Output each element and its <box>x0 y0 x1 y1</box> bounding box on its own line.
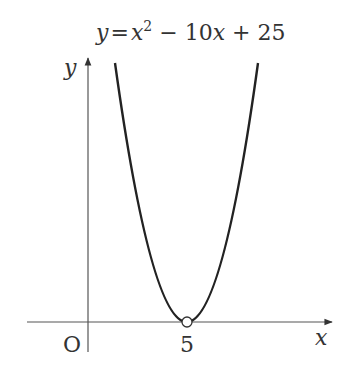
origin-label: O <box>63 332 81 357</box>
vertex-open-circle <box>182 317 192 327</box>
y-axis-label: y <box>63 55 77 80</box>
x-axis-label: x <box>315 325 328 350</box>
equation-title: y=x2 − 10x + 25 <box>95 18 285 45</box>
x-tick-5-label: 5 <box>180 332 194 357</box>
parabola-graph: y=x2 − 10x + 25 y x O 5 <box>0 0 353 380</box>
parabola-curve <box>115 63 258 322</box>
